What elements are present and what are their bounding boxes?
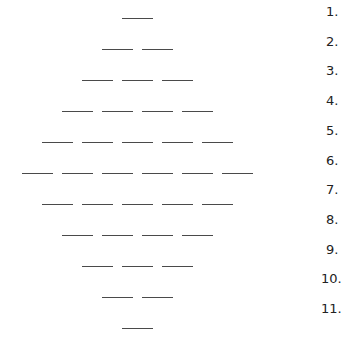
question-number: 8. [326, 212, 338, 228]
answer-blank[interactable] [42, 204, 73, 205]
answer-blank[interactable] [142, 173, 173, 174]
answer-blank[interactable] [102, 235, 133, 236]
question-number: 7. [326, 182, 338, 198]
answer-blank[interactable] [142, 297, 173, 298]
answer-blank[interactable] [102, 111, 133, 112]
answer-blank[interactable] [102, 49, 133, 50]
blank-row [0, 163, 290, 183]
answer-blank[interactable] [22, 173, 53, 174]
answer-blank[interactable] [122, 18, 153, 19]
answer-blank[interactable] [82, 266, 113, 267]
question-number: 2. [326, 34, 338, 50]
answer-blank[interactable] [122, 266, 153, 267]
answer-blank[interactable] [102, 297, 133, 298]
answer-blank[interactable] [142, 111, 173, 112]
answer-blank[interactable] [62, 235, 93, 236]
blank-row [0, 101, 290, 121]
answer-blank[interactable] [162, 80, 193, 81]
answer-blank[interactable] [162, 204, 193, 205]
blank-row [0, 132, 290, 152]
blank-row [0, 70, 290, 90]
answer-blank[interactable] [122, 80, 153, 81]
answer-blank[interactable] [62, 111, 93, 112]
question-number: 4. [326, 93, 338, 109]
answer-blank[interactable] [142, 235, 173, 236]
question-number: 9. [326, 242, 338, 258]
answer-blank[interactable] [82, 142, 113, 143]
question-number: 5. [326, 123, 338, 139]
answer-blank[interactable] [202, 204, 233, 205]
blank-row [0, 39, 290, 59]
blank-row [0, 318, 290, 338]
answer-blank[interactable] [122, 328, 153, 329]
blank-row [0, 194, 290, 214]
answer-blank[interactable] [162, 142, 193, 143]
answer-blank[interactable] [122, 142, 153, 143]
answer-blank[interactable] [162, 266, 193, 267]
answer-blank[interactable] [102, 173, 133, 174]
answer-blank[interactable] [202, 142, 233, 143]
answer-blank[interactable] [222, 173, 253, 174]
answer-blank[interactable] [142, 49, 173, 50]
blank-row [0, 8, 290, 28]
answer-blank[interactable] [122, 204, 153, 205]
answer-blank[interactable] [182, 235, 213, 236]
answer-blank[interactable] [182, 111, 213, 112]
question-number: 11. [321, 301, 342, 317]
question-number: 3. [326, 63, 338, 79]
question-number: 6. [326, 153, 338, 169]
question-number: 1. [326, 4, 338, 20]
question-number: 10. [321, 271, 342, 287]
answer-blank[interactable] [42, 142, 73, 143]
answer-blank[interactable] [182, 173, 213, 174]
answer-blank[interactable] [62, 173, 93, 174]
blank-row [0, 287, 290, 307]
blank-row [0, 256, 290, 276]
answer-blank[interactable] [82, 204, 113, 205]
answer-blank[interactable] [82, 80, 113, 81]
blank-row [0, 225, 290, 245]
